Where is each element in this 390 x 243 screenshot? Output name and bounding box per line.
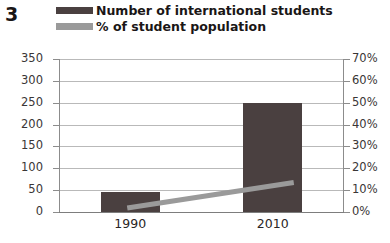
y-axis-tick-label: 200 bbox=[21, 119, 43, 130]
y-axis-tick-label: 100 bbox=[21, 162, 43, 173]
y-axis-tick-label: 50 bbox=[28, 184, 43, 195]
y-axis-tick-label: 300 bbox=[21, 75, 43, 86]
y2-axis-tick-label: 20% bbox=[352, 162, 378, 173]
y2-axis-tick-mark bbox=[344, 81, 350, 82]
y2-axis-tick-label: 10% bbox=[352, 184, 378, 195]
y2-axis-tick-label: 30% bbox=[352, 140, 378, 151]
y2-axis-tick-label: 40% bbox=[352, 119, 378, 130]
x-axis-tick-label: 2010 bbox=[202, 216, 345, 231]
y2-axis-tick-mark bbox=[344, 125, 350, 126]
y-axis-tick-label: 250 bbox=[21, 97, 43, 108]
y-axis-tick-label: 350 bbox=[21, 53, 43, 64]
y-axis-tick-mark bbox=[53, 212, 59, 213]
x-axis-line bbox=[59, 212, 345, 213]
y-axis-tick-label: 150 bbox=[21, 140, 43, 151]
y2-axis-tick-label: 70% bbox=[352, 53, 378, 64]
percent-line bbox=[127, 183, 294, 209]
y2-axis-tick-mark bbox=[344, 168, 350, 169]
y2-axis-tick-mark bbox=[344, 212, 350, 213]
y2-axis-tick-mark bbox=[344, 190, 350, 191]
x-axis-tick-label: 1990 bbox=[59, 216, 202, 231]
y2-axis-tick-label: 0% bbox=[352, 206, 370, 217]
y2-axis-tick-mark bbox=[344, 103, 350, 104]
y2-axis-tick-label: 50% bbox=[352, 97, 378, 108]
y2-axis-tick-mark bbox=[344, 59, 350, 60]
y2-axis-tick-mark bbox=[344, 146, 350, 147]
y-axis-tick-label: 0 bbox=[36, 206, 43, 217]
percent-line-layer bbox=[59, 59, 344, 212]
y2-axis-tick-label: 60% bbox=[352, 75, 378, 86]
chart-canvas: 35070%30060%25050%20040%15030%10020%5010… bbox=[0, 0, 390, 243]
